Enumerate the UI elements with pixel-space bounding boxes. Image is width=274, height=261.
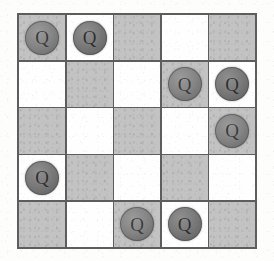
board-cell-r5c5[interactable] — [209, 202, 255, 247]
queen-piece-r5c4[interactable]: Q — [168, 207, 202, 241]
board-cell-r2c5[interactable]: Q — [209, 62, 255, 107]
scanned-page: QQQQQQQQ — [0, 0, 274, 261]
queen-letter: Q — [178, 215, 192, 234]
queen-letter: Q — [83, 28, 97, 47]
board-cell-r5c1[interactable] — [19, 202, 65, 247]
queen-piece-r2c5[interactable]: Q — [215, 67, 249, 101]
board-cell-r4c4[interactable] — [162, 155, 208, 200]
board-cell-r1c5[interactable] — [209, 15, 255, 60]
board-cell-r4c3[interactable] — [114, 155, 160, 200]
board-cell-r3c2[interactable] — [67, 108, 113, 153]
queen-letter: Q — [130, 215, 144, 234]
board-cell-r4c2[interactable] — [67, 155, 113, 200]
board-cell-r4c1[interactable]: Q — [19, 155, 65, 200]
chessboard-grid[interactable]: QQQQQQQQ — [17, 13, 257, 249]
chessboard-figure: QQQQQQQQ — [17, 13, 257, 249]
queen-letter: Q — [178, 75, 192, 94]
board-cell-r3c4[interactable] — [162, 108, 208, 153]
board-cell-r1c3[interactable] — [114, 15, 160, 60]
queen-piece-r1c1[interactable]: Q — [25, 21, 59, 55]
board-cell-r2c3[interactable] — [114, 62, 160, 107]
board-cell-r3c3[interactable] — [114, 108, 160, 153]
queen-piece-r4c1[interactable]: Q — [25, 161, 59, 195]
queen-piece-r3c5[interactable]: Q — [215, 114, 249, 148]
board-cell-r4c5[interactable] — [209, 155, 255, 200]
board-cell-r5c3[interactable]: Q — [114, 202, 160, 247]
board-cell-r5c4[interactable]: Q — [162, 202, 208, 247]
queen-letter: Q — [35, 28, 49, 47]
queen-letter: Q — [225, 75, 239, 94]
board-cell-r2c4[interactable]: Q — [162, 62, 208, 107]
board-cell-r3c1[interactable] — [19, 108, 65, 153]
queen-piece-r1c2[interactable]: Q — [73, 21, 107, 55]
queen-letter: Q — [225, 121, 239, 140]
board-cell-r1c1[interactable]: Q — [19, 15, 65, 60]
queen-piece-r5c3[interactable]: Q — [120, 207, 154, 241]
board-cell-r3c5[interactable]: Q — [209, 108, 255, 153]
board-cell-r1c4[interactable] — [162, 15, 208, 60]
queen-piece-r2c4[interactable]: Q — [168, 67, 202, 101]
board-cell-r1c2[interactable]: Q — [67, 15, 113, 60]
queen-letter: Q — [35, 168, 49, 187]
board-cell-r2c2[interactable] — [67, 62, 113, 107]
board-cell-r5c2[interactable] — [67, 202, 113, 247]
board-cell-r2c1[interactable] — [19, 62, 65, 107]
